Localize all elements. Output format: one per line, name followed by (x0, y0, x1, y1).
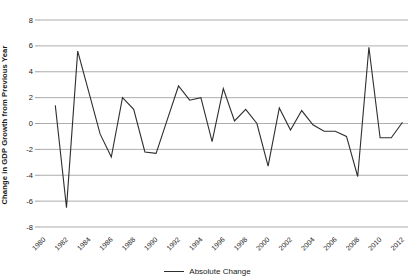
legend: Absolute Change (0, 265, 415, 277)
svg-text:2000: 2000 (255, 236, 271, 252)
svg-text:-8: -8 (26, 223, 33, 232)
svg-text:1982: 1982 (53, 236, 69, 252)
y-tick-marks (35, 20, 40, 227)
svg-text:2012: 2012 (389, 236, 405, 252)
svg-text:2010: 2010 (367, 236, 383, 252)
svg-text:4: 4 (29, 67, 33, 76)
svg-text:2002: 2002 (277, 236, 293, 252)
svg-text:2006: 2006 (322, 236, 338, 252)
gdp-change-chart: 86420-2-4-6-8 19801982198419861988199019… (0, 0, 415, 280)
svg-text:-6: -6 (26, 197, 33, 206)
svg-text:2008: 2008 (344, 236, 360, 252)
svg-text:1986: 1986 (98, 236, 114, 252)
svg-text:1988: 1988 (120, 236, 136, 252)
data-line-absolute-change (55, 47, 402, 207)
svg-text:6: 6 (29, 41, 33, 50)
y-tick-labels: 86420-2-4-6-8 (26, 16, 33, 232)
svg-text:-4: -4 (26, 171, 33, 180)
gridlines (40, 20, 408, 227)
svg-text:1980: 1980 (31, 236, 47, 252)
x-tick-labels: 1980198219841986198819901992199419961998… (31, 236, 405, 252)
legend-label: Absolute Change (189, 267, 250, 276)
svg-text:-2: -2 (26, 145, 33, 154)
legend-line-swatch (164, 271, 184, 272)
svg-text:1994: 1994 (188, 236, 204, 252)
svg-text:0: 0 (29, 119, 33, 128)
svg-text:2004: 2004 (300, 236, 316, 252)
svg-text:2: 2 (29, 93, 33, 102)
y-axis-title: Change in GDP Growth from Previous Year (0, 12, 14, 238)
svg-text:1996: 1996 (210, 236, 226, 252)
svg-text:1990: 1990 (143, 236, 159, 252)
svg-text:8: 8 (29, 16, 33, 25)
svg-text:1998: 1998 (232, 236, 248, 252)
svg-text:1984: 1984 (76, 236, 92, 252)
svg-text:1992: 1992 (165, 236, 181, 252)
chart-canvas: 86420-2-4-6-8 19801982198419861988199019… (0, 0, 415, 280)
